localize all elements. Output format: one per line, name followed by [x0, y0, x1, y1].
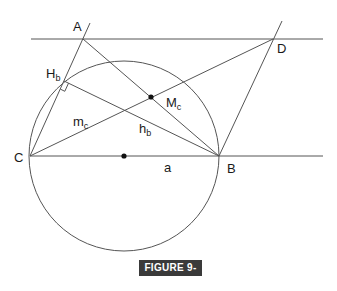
- label-hb: Hb: [46, 66, 60, 83]
- point-mc-dot: [148, 94, 153, 99]
- side-bd: [219, 21, 282, 156]
- label-side-a: a: [164, 160, 172, 175]
- altitude-hb: [64, 81, 219, 156]
- label-altitude-hb: hb: [139, 121, 151, 138]
- label-c-vertex: C: [14, 150, 23, 165]
- geometry-figure: A D C B Hb Mc mc hb a: [0, 0, 337, 291]
- label-mc: Mc: [166, 95, 182, 112]
- label-d-vertex: D: [277, 41, 286, 56]
- figure-caption: FIGURE 9-13: [139, 260, 202, 276]
- center-dot: [121, 153, 126, 158]
- label-b-vertex: B: [227, 161, 236, 176]
- label-median-mc: mc: [73, 114, 89, 131]
- label-a-vertex: A: [73, 19, 82, 34]
